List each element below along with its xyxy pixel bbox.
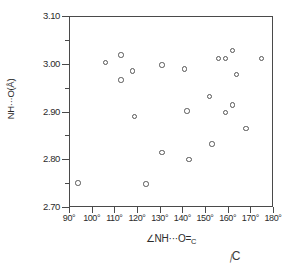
y-minor-tick-mark (65, 183, 69, 184)
y-tick-label: 2.90 (43, 106, 60, 117)
y-tick-label: 3.00 (43, 58, 60, 69)
y-tick-label: 3.10 (43, 10, 60, 21)
scatter-plot-figure: 3.103.002.902.802.70 90°100°110°120°130°… (0, 0, 306, 274)
bottom-structure-fragment: ∕C (230, 249, 241, 263)
y-tick-mark (62, 64, 69, 65)
y-tick-mark (62, 207, 69, 208)
y-tick-mark (62, 16, 69, 17)
plot-frame (69, 16, 273, 207)
y-minor-tick-mark (65, 88, 69, 89)
y-minor-tick-mark (65, 135, 69, 136)
y-axis-title-text: NH···O(Å) (5, 54, 16, 144)
y-tick-mark (62, 159, 69, 160)
x-tick-label: 180° (257, 213, 289, 223)
y-tick-label: 2.70 (43, 201, 60, 212)
x-axis-title-text: ∠NH···O=C (146, 233, 197, 244)
y-tick-mark (62, 112, 69, 113)
y-tick-label: 2.80 (43, 153, 60, 164)
x-axis-title: ∠NH···O=C (69, 233, 273, 246)
y-minor-tick-mark (65, 40, 69, 41)
